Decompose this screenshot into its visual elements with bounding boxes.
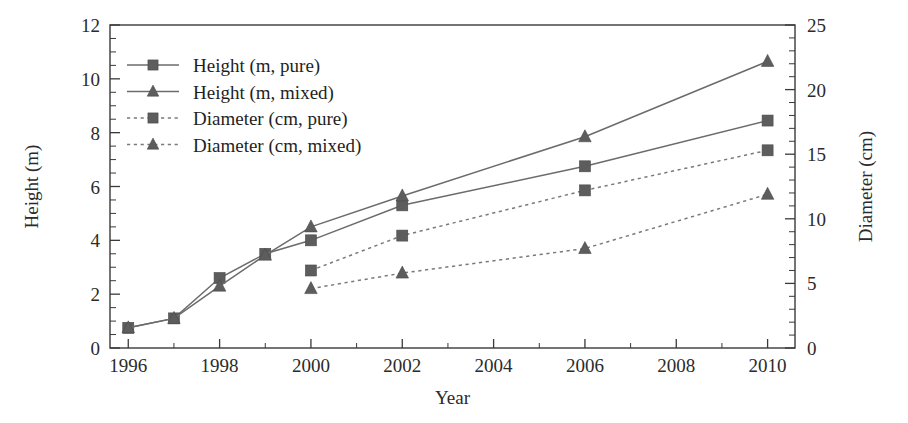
- y2-tick-label: 0: [807, 338, 817, 359]
- legend-label: Height (m, mixed): [193, 82, 334, 104]
- data-point-marker: [397, 230, 408, 241]
- x-tick-label: 2010: [749, 355, 787, 376]
- data-point-marker: [762, 115, 773, 126]
- data-point-marker: [305, 235, 316, 246]
- x-tick-label: 1996: [109, 355, 147, 376]
- y2-tick-label: 25: [807, 15, 826, 36]
- legend-sample-marker: [148, 60, 158, 70]
- y-tick-label: 6: [91, 177, 101, 198]
- y2-tick-label: 10: [807, 209, 826, 230]
- y2-tick-label: 15: [807, 144, 826, 165]
- data-point-marker: [305, 265, 316, 276]
- y-tick-label: 10: [81, 69, 100, 90]
- data-point-marker: [762, 145, 773, 156]
- legend-label: Diameter (cm, pure): [193, 108, 348, 130]
- data-point-marker: [579, 185, 590, 196]
- y2-tick-label: 5: [807, 273, 817, 294]
- x-tick-label: 1998: [201, 355, 239, 376]
- x-tick-label: 2008: [657, 355, 695, 376]
- y-tick-label: 8: [91, 123, 101, 144]
- data-point-marker: [397, 200, 408, 211]
- x-tick-label: 2004: [475, 355, 514, 376]
- y2-tick-label: 20: [807, 80, 826, 101]
- y-tick-label: 0: [91, 338, 101, 359]
- legend-label: Height (m, pure): [193, 55, 320, 77]
- y2-axis-title: Diameter (cm): [855, 131, 877, 242]
- line-chart-canvas: 19961998200020022004200620082010 0246810…: [0, 0, 908, 423]
- y-tick-label: 12: [81, 15, 100, 36]
- chart-figure: 19961998200020022004200620082010 0246810…: [0, 0, 908, 423]
- x-tick-label: 2000: [292, 355, 330, 376]
- x-tick-label: 2002: [383, 355, 421, 376]
- y-tick-label: 2: [91, 284, 101, 305]
- legend-label: Diameter (cm, mixed): [193, 135, 361, 157]
- y-tick-label: 4: [91, 230, 101, 251]
- data-point-marker: [579, 161, 590, 172]
- legend-sample-marker: [148, 113, 158, 123]
- x-tick-label: 2006: [566, 355, 604, 376]
- y-axis-title: Height (m): [21, 145, 43, 229]
- x-axis-title: Year: [435, 387, 471, 408]
